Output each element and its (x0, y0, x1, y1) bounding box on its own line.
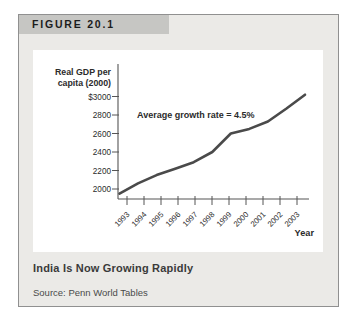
x-tick-label: 2002 (266, 210, 285, 229)
figure-label-bar: FIGURE 20.1 (19, 15, 169, 34)
x-tick-label: 1997 (181, 210, 200, 229)
chart-box: 20002200240026002800$3000199319941995199… (33, 50, 323, 252)
y-tick-label: 2200 (93, 167, 112, 176)
figure-panel: FIGURE 20.1 20002200240026002800$3000199… (18, 14, 339, 307)
gdp-line-chart: 20002200240026002800$3000199319941995199… (33, 50, 323, 252)
x-tick-label: 2000 (232, 210, 251, 229)
x-tick-label: 2001 (249, 210, 268, 229)
figure-label: FIGURE 20.1 (32, 18, 115, 30)
y-tick-label: 2600 (93, 130, 112, 139)
x-tick-label: 1993 (113, 210, 132, 229)
x-axis-title: Year (295, 228, 315, 238)
x-tick-label: 2003 (283, 210, 302, 229)
y-tick-label: 2400 (93, 148, 112, 157)
y-axis-title: Real GDP per (55, 67, 112, 77)
figure-source: Source: Penn World Tables (33, 287, 148, 298)
y-axis-title: capita (2000) (58, 78, 111, 88)
x-tick-label: 1998 (198, 210, 217, 229)
figure-caption: India Is Now Growing Rapidly (33, 262, 193, 274)
x-tick-label: 1996 (164, 210, 183, 229)
x-tick-label: 1995 (147, 210, 166, 229)
y-tick-label: 2800 (93, 111, 112, 120)
x-tick-label: 1999 (215, 210, 234, 229)
y-tick-label: $3000 (88, 93, 111, 102)
y-tick-label: 2000 (93, 185, 112, 194)
growth-rate-annotation: Average growth rate = 4.5% (137, 110, 254, 120)
x-tick-label: 1994 (130, 210, 149, 229)
